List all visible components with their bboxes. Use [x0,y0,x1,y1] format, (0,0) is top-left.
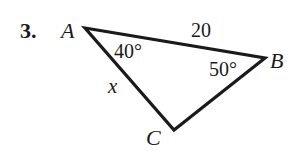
side-ac-variable: x [107,74,118,98]
vertex-label-b: B [270,48,283,73]
vertex-label-a: A [59,18,75,43]
vertex-label-c: C [146,125,161,150]
angle-b-measure: 50° [209,58,237,80]
problem-number: 3. [20,18,37,43]
side-ab-length: 20 [191,19,211,41]
triangle-diagram: 3. A B C 20 x 40° 50° [0,0,303,153]
angle-a-measure: 40° [114,40,142,62]
